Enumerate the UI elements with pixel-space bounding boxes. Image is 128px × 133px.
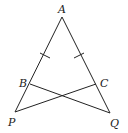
label-P: P [7, 116, 16, 129]
label-A: A [57, 3, 66, 16]
geometry-diagram: A B C P Q [0, 0, 128, 133]
label-Q: Q [110, 117, 119, 130]
label-C: C [100, 77, 109, 90]
label-B: B [18, 77, 27, 90]
tick-mark-AB [40, 53, 50, 58]
